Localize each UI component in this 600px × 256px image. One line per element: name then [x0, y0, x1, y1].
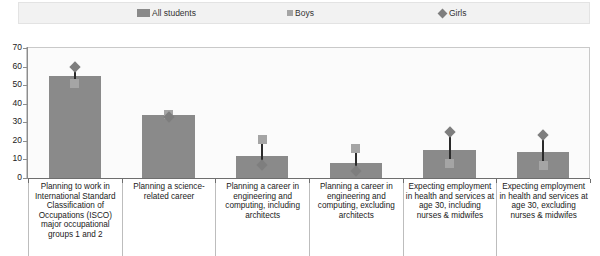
legend-square-marker-icon	[287, 10, 293, 16]
y-axis-tick	[23, 104, 28, 105]
x-axis-category-label: Planning a career in engineering and com…	[310, 179, 403, 220]
x-axis-category: Expecting employment in health and servi…	[403, 179, 497, 256]
y-axis-tick	[23, 141, 28, 142]
y-axis-tick-label: 40	[0, 99, 22, 108]
legend-item-girls[interactable]: Girls	[439, 6, 466, 20]
legend-item-all-students[interactable]: All students	[137, 6, 196, 20]
girls-marker[interactable]	[537, 130, 548, 141]
x-axis-tick	[403, 179, 404, 183]
legend-bar-swatch-icon	[137, 9, 150, 17]
y-axis-tick-label: 70	[0, 43, 22, 52]
boys-marker[interactable]	[445, 159, 454, 168]
x-axis-category: Planning a career in engineering and com…	[309, 179, 403, 256]
boys-marker[interactable]	[539, 161, 548, 170]
x-axis-tick	[215, 179, 216, 183]
legend-diamond-marker-icon	[438, 8, 448, 18]
y-axis-tick-label: 10	[0, 154, 22, 163]
bar[interactable]	[49, 76, 101, 178]
x-axis-tick	[28, 179, 29, 183]
legend-label-all-students: All students	[152, 8, 196, 18]
y-axis-tick-label: 30	[0, 117, 22, 126]
chart-legend: All students Boys Girls	[18, 2, 590, 24]
x-axis-category-label: Expecting employment in health and servi…	[497, 179, 590, 220]
y-axis-tick	[23, 85, 28, 86]
x-axis-category-label: Planning to work in International Standa…	[29, 179, 122, 240]
bar[interactable]	[142, 115, 194, 178]
y-axis-tick-label: 60	[0, 62, 22, 71]
legend-label-boys: Boys	[295, 8, 314, 18]
boys-marker[interactable]	[70, 79, 79, 88]
y-axis-labels: 706050403020100	[0, 0, 22, 256]
chart-figure: All students Boys Girls 706050403020100 …	[0, 0, 600, 256]
x-axis-category-label: Planning a science-related career	[123, 179, 216, 201]
boys-marker[interactable]	[258, 135, 267, 144]
legend-item-boys[interactable]: Boys	[287, 6, 314, 20]
y-axis-tick	[23, 48, 28, 49]
x-axis-category-labels: Planning to work in International Standa…	[26, 179, 590, 256]
x-axis-tick	[496, 179, 497, 183]
y-axis-tick-label: 20	[0, 136, 22, 145]
x-axis-category: Planning a career in engineering and com…	[215, 179, 309, 256]
x-axis-category: Planning a science-related career	[122, 179, 216, 256]
legend-label-girls: Girls	[449, 8, 466, 18]
x-axis-category: Expecting employment in health and servi…	[496, 179, 590, 256]
x-axis-category: Planning to work in International Standa…	[28, 179, 122, 256]
girls-marker[interactable]	[444, 126, 455, 137]
x-axis-category-label: Planning a career in engineering and com…	[216, 179, 309, 220]
x-axis-tick	[122, 179, 123, 183]
boys-marker[interactable]	[351, 144, 360, 153]
plot-area	[28, 48, 590, 178]
girls-marker[interactable]	[69, 61, 80, 72]
y-axis-tick	[23, 122, 28, 123]
x-axis-category-label: Expecting employment in health and servi…	[404, 179, 497, 220]
y-axis-tick-label: 50	[0, 80, 22, 89]
x-axis-tick	[309, 179, 310, 183]
y-axis-tick-label: 0	[0, 173, 22, 182]
y-axis-tick	[23, 159, 28, 160]
y-axis-tick	[23, 67, 28, 68]
x-axis-tick	[590, 179, 591, 183]
